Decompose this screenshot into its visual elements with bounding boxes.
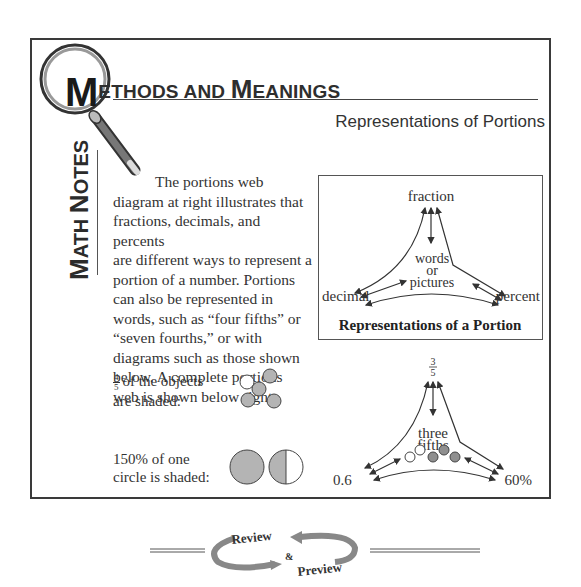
body-line: can also be represented in bbox=[113, 289, 313, 309]
side-label-rest-1: ATH bbox=[70, 213, 92, 258]
preview-label: Preview bbox=[297, 559, 343, 579]
web-center-line: pictures bbox=[410, 275, 454, 290]
section-subtitle: Representations of Portions bbox=[310, 112, 545, 132]
example-portions-web: 3 5 three fifths 0.6 60% bbox=[320, 345, 550, 495]
fraction-four-fifths: 45 bbox=[113, 373, 120, 392]
review-preview-banner: Review & Preview bbox=[150, 520, 490, 587]
body-line: words, such as “four fifths” or bbox=[113, 309, 313, 329]
caption-line: circle is shaded: bbox=[113, 468, 210, 486]
side-divider bbox=[97, 150, 98, 275]
title-divider bbox=[113, 99, 538, 100]
web-caption: Representations of a Portion bbox=[339, 317, 522, 333]
caption-line: of the objects bbox=[123, 373, 204, 389]
portions-web-arrows: fraction words or pictures decimal perce… bbox=[318, 175, 543, 340]
ampersand-label: & bbox=[285, 551, 293, 562]
preview-arrow-icon bbox=[300, 536, 355, 562]
side-label-cap-2: N bbox=[64, 194, 94, 213]
body-line: are different ways to represent a bbox=[113, 250, 313, 270]
body-line: The portions web bbox=[113, 172, 313, 192]
caption-line: are shaded: bbox=[113, 392, 203, 410]
example-percent-caption: 150% of one circle is shaded: bbox=[113, 450, 210, 486]
body-line: diagrams such as those shown bbox=[113, 348, 313, 368]
body-line: diagram at right illustrates that bbox=[113, 192, 313, 212]
example-web-fraction-num: 3 bbox=[431, 356, 436, 367]
side-label-cap-1: M bbox=[64, 258, 94, 280]
example-web-right-label: 60% bbox=[505, 472, 533, 488]
body-line: portion of a number. Portions bbox=[113, 270, 313, 290]
math-notes-side-label: MATH NOTES bbox=[64, 140, 95, 280]
title-big-m: M bbox=[65, 70, 98, 114]
web-top-label: fraction bbox=[408, 188, 455, 204]
shaded-objects-diagram bbox=[235, 366, 285, 411]
percent-circles-diagram bbox=[226, 446, 311, 488]
body-line: “seven fourths,” or with bbox=[113, 328, 313, 348]
side-label-rest-2: OTES bbox=[70, 140, 92, 194]
fraction-denominator: 5 bbox=[113, 383, 120, 392]
page-title: METHODS AND MEANINGS bbox=[105, 62, 340, 107]
web-right-label: percent bbox=[496, 288, 541, 304]
review-label: Review bbox=[231, 528, 273, 547]
caption-line: 150% of one bbox=[113, 450, 210, 468]
example-fraction-caption: 45of the objects are shaded: bbox=[113, 372, 203, 410]
example-web-left-label: 0.6 bbox=[333, 472, 352, 488]
example-web-fraction-den: 5 bbox=[431, 367, 436, 378]
body-line: fractions, decimals, and percents bbox=[113, 211, 313, 250]
